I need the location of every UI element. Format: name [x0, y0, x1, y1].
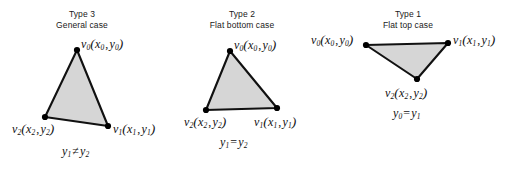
vertex-dot-type-3-v2	[42, 114, 48, 120]
vertex-label-type-2-v1: v1(x1,y1)	[254, 114, 296, 130]
triangle-type-3	[45, 50, 108, 126]
case-title-type-1: Type 1 Flat top case	[362, 9, 454, 30]
vertex-dot-type-2-v2	[203, 107, 209, 113]
triangle-type-2	[206, 51, 277, 110]
vertex-label-type-2-v0: v0(x0,y0)	[234, 37, 276, 53]
vertex-dot-type-1-v0	[363, 42, 369, 48]
relation-type-3: y1≠y2	[62, 144, 89, 159]
case-title-type-3-line1: Type 3	[37, 9, 127, 20]
vertex-label-type-2-v2: v2(x2,y2)	[184, 114, 226, 130]
vertex-dot-type-3-v1	[105, 123, 111, 129]
case-title-type-3-line2: General case	[37, 20, 127, 31]
vertex-label-type-3-v1: v1(x1,y1)	[113, 121, 155, 137]
triangle-type-1	[366, 43, 448, 79]
relation-type-2: y1=y2	[220, 135, 248, 150]
vertex-dot-type-1-v2	[414, 76, 420, 82]
vertex-label-type-1-v2: v2(x2,y2)	[385, 85, 427, 101]
vertex-label-type-1-v1: v1(x1,y1)	[453, 32, 495, 48]
vertex-dot-type-2-v0	[227, 48, 233, 54]
triangle-rasterization-cases-figure: Type 3 General case v0(x0,y0) v2(x2,y2) …	[0, 0, 514, 169]
vertex-dot-type-3-v0	[74, 47, 80, 53]
vertex-label-type-1-v0: v0(x0,y0)	[311, 32, 353, 48]
case-title-type-2-line1: Type 2	[192, 9, 292, 20]
vertex-dot-type-1-v1	[445, 40, 451, 46]
case-title-type-1-line2: Flat top case	[362, 20, 454, 31]
vertex-label-type-3-v0: v0(x0,y0)	[81, 36, 123, 52]
case-title-type-1-line1: Type 1	[362, 9, 454, 20]
case-title-type-2-line2: Flat bottom case	[192, 20, 292, 31]
vertex-dot-type-2-v1	[274, 105, 280, 111]
vertex-label-type-3-v2: v2(x2,y2)	[12, 121, 54, 137]
relation-type-1: y0=y1	[393, 106, 421, 121]
case-title-type-2: Type 2 Flat bottom case	[192, 9, 292, 30]
case-title-type-3: Type 3 General case	[37, 9, 127, 30]
